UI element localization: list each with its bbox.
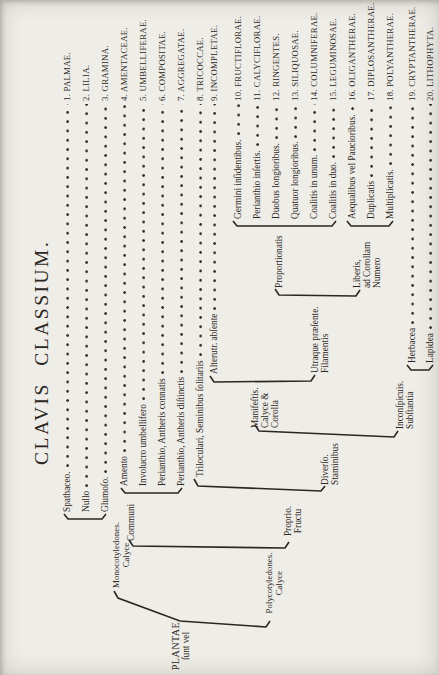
condition-text: Aequalibus vel Paucioribus. — [347, 114, 357, 219]
class-label: 19. CRYPTANTHERAE. — [407, 5, 417, 101]
key-row-2: Nullo2. LILIA. — [79, 5, 92, 512]
key-row-15: Coalitis in duo.15. LEGUMINOSAE. — [326, 5, 339, 219]
condition-text: Multiplicatis. — [385, 169, 395, 219]
dot-leader — [180, 104, 184, 373]
dot-leader — [370, 104, 374, 177]
class-label: 17. DIPLOSANTHERAE. — [366, 5, 376, 101]
class-label: 20. LITHOPHYTA. — [425, 5, 435, 101]
key-row-9: Alterutr. abſente9. INCOMPLETAE. — [207, 5, 220, 374]
class-label: 16. OLIGANTHERAE. — [347, 5, 357, 101]
class-label: 8. TRICOCCAE. — [195, 5, 205, 101]
dot-leader — [123, 104, 127, 452]
condition-text: Germini inſidentibus. — [233, 139, 243, 219]
label-plantae: PLANTAE ſunt vel — [170, 621, 191, 671]
condition-text: Triloculari, Seminibus ſolitariis — [195, 360, 205, 477]
key-row-3: Glumoſo.3. GRAMINA. — [98, 5, 111, 512]
class-label: 5. UMBELLIFERAE. — [138, 5, 148, 101]
brace-proprio — [194, 479, 325, 491]
class-label: 15. LEGUMINOSAE. — [328, 5, 338, 101]
label-inconspicuis: Inconſpicuis. Subſtantia — [396, 369, 416, 429]
label-liberis: Liberis, ad Corollam Numero — [353, 230, 382, 288]
key-row-7: Perianthio, Antheris diſtinctis7. AGGREG… — [174, 5, 187, 486]
label-plantae-line1: PLANTAE — [170, 621, 181, 671]
class-label: 6. COMPOSITAE. — [157, 5, 167, 101]
scanned-page: CLAVIS CLASSIUM. PLANTAE ſunt vel Monoco… — [0, 0, 439, 675]
dot-leader — [142, 104, 146, 400]
dot-leader — [66, 104, 70, 467]
condition-text: Involucro umbellifero — [138, 404, 148, 486]
condition-text: Alterutr. abſente — [209, 314, 219, 374]
dot-leader — [389, 104, 393, 165]
key-row-8: Triloculari, Seminibus ſolitariis8. TRIC… — [193, 5, 206, 477]
dot-leader — [332, 104, 336, 158]
dot-leader — [213, 104, 217, 310]
class-label: 10. FRUCTIFLORAE. — [233, 5, 243, 101]
label-utraque: Utraque præſente. Filamentis — [311, 291, 331, 373]
label-plantae-line2: ſunt vel — [181, 621, 191, 671]
dot-leader — [313, 104, 317, 151]
dot-leader — [85, 104, 89, 487]
key-row-19: Herbacea19. CRYPTANTHERAE. — [405, 5, 418, 363]
class-label: 2. LILIA. — [81, 5, 91, 101]
condition-text: Herbacea — [407, 328, 417, 363]
label-diverso: Diverſo. Staminibus — [321, 433, 341, 485]
class-label: 1. PALMAE. — [62, 5, 72, 101]
class-label: 4. AMENTACEAE. — [119, 5, 129, 101]
condition-text: Perianthio, Antheris diſtinctis — [176, 377, 186, 486]
key-row-18: Multiplicatis.18. POLYANTHERAE. — [383, 5, 396, 219]
key-row-17: Duplicatis17. DIPLOSANTHERAE. — [364, 5, 377, 219]
key-row-4: Amento4. AMENTACEAE. — [117, 5, 130, 486]
key-row-13: Quatuor longioribus.13. SILIQUOSAE. — [288, 5, 301, 219]
class-label: 14. COLUMNIFERAE. — [309, 5, 319, 101]
dot-leader — [199, 104, 203, 356]
dot-leader — [275, 104, 279, 139]
class-label: 12. RINGENTES. — [271, 5, 281, 101]
dot-leader — [256, 104, 260, 146]
brace-plantae — [114, 591, 270, 627]
condition-text: Perianthio inſertis. — [252, 150, 262, 219]
dot-leader — [429, 104, 433, 329]
dot-leader — [161, 104, 165, 374]
dot-leader — [351, 104, 355, 110]
key-row-11: Perianthio inſertis.11. CALYCIFLORAE. — [250, 5, 263, 219]
label-manifestis: Manifeſtis. Calyce & Corolla — [251, 380, 280, 428]
class-label: 18. POLYANTHERAE. — [385, 5, 395, 101]
condition-text: Duobus longioribus. — [271, 143, 281, 219]
condition-text: Duplicatis — [366, 181, 376, 219]
condition-text: Quatuor longioribus. — [290, 142, 300, 219]
class-label: 13. SILIQUOSAE. — [290, 5, 300, 101]
label-polycotyledones: Polycotyledones. Calyce — [265, 547, 284, 619]
class-label: 3. GRAMINA. — [100, 5, 110, 101]
condition-text: Coalitis in duo. — [328, 162, 338, 219]
condition-text: Amento — [119, 456, 129, 486]
condition-text: Coalitis in unum. — [309, 155, 319, 219]
class-label: 9. INCOMPLETAE. — [209, 5, 219, 101]
condition-text: Lapidea — [425, 333, 435, 363]
dot-leader — [411, 104, 415, 324]
brace-proportionatis — [233, 221, 336, 226]
brace-monocot — [64, 514, 106, 519]
key-row-10: Germini inſidentibus.10. FRUCTIFLORAE. — [231, 5, 244, 219]
label-proprio: Proprio. Fructu — [284, 500, 304, 542]
condition-text: Perianthio, Antheris connatis — [157, 378, 167, 486]
condition-text: Spathaceo. — [62, 471, 72, 512]
condition-text: Nullo — [81, 491, 91, 512]
dot-leader — [237, 104, 241, 135]
dot-leader — [294, 104, 298, 138]
class-label: 11. CALYCIFLORAE. — [252, 5, 262, 101]
class-label: 7. AGGREGATAE. — [176, 5, 186, 101]
key-row-20: Lapidea20. LITHOPHYTA. — [423, 5, 436, 363]
key-row-5: Involucro umbellifero5. UMBELLIFERAE. — [136, 5, 149, 486]
brace-liberis — [347, 221, 393, 226]
key-row-12: Duobus longioribus.12. RINGENTES. — [269, 5, 282, 219]
key-row-6: Perianthio, Antheris connatis6. COMPOSIT… — [155, 5, 168, 486]
label-proportionatis: Proportionatis — [275, 235, 285, 288]
key-row-1: Spathaceo.1. PALMAE. — [60, 5, 73, 512]
dot-leader — [104, 104, 108, 473]
key-row-16: Aequalibus vel Paucioribus.16. OLIGANTHE… — [345, 5, 358, 219]
key-row-14: Coalitis in unum.14. COLUMNIFERAE. — [307, 5, 320, 219]
condition-text: Glumoſo. — [100, 477, 110, 512]
page: CLAVIS CLASSIUM. PLANTAE ſunt vel Monoco… — [0, 0, 439, 675]
label-communi: Communi — [127, 504, 137, 541]
brace-communi — [121, 488, 182, 493]
